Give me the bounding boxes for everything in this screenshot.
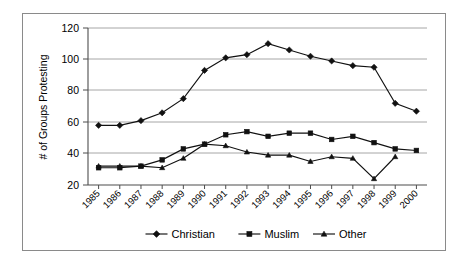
x-tick-label-1989: 1989 — [164, 188, 187, 211]
chart-legend: ChristianMuslimOther — [146, 228, 367, 240]
x-tick-labels: 1985198619871988198919901991199219931994… — [79, 188, 420, 211]
data-point-muslim-1994 — [287, 131, 292, 136]
legend-label-christian: Christian — [172, 228, 215, 240]
data-point-other-1999 — [393, 154, 398, 159]
x-tick-label-1985: 1985 — [79, 188, 102, 211]
x-tick-label-1994: 1994 — [270, 188, 293, 211]
x-tick-label-1991: 1991 — [206, 188, 229, 211]
data-point-muslim-1989 — [181, 147, 186, 152]
data-point-christian-1987 — [138, 118, 144, 124]
data-point-muslim-1991 — [223, 132, 228, 137]
data-point-christian-1998 — [371, 64, 377, 70]
data-point-other-1989 — [181, 156, 186, 161]
data-series-layer — [95, 41, 419, 181]
data-point-christian-1992 — [244, 52, 250, 58]
series-muslim — [96, 129, 418, 170]
y-tick-label-60: 60 — [67, 116, 79, 128]
y-tick-label-20: 20 — [67, 179, 79, 191]
data-point-muslim-1988 — [160, 158, 165, 163]
x-tick-label-1997: 1997 — [334, 188, 357, 211]
data-point-muslim-2000 — [414, 148, 419, 153]
series-line-muslim — [99, 132, 417, 168]
data-point-christian-1985 — [95, 122, 101, 128]
data-point-christian-1995 — [307, 53, 313, 59]
data-point-christian-1988 — [159, 110, 165, 116]
data-point-muslim-1998 — [372, 140, 377, 145]
data-point-christian-2000 — [413, 108, 419, 114]
data-point-muslim-1996 — [329, 137, 334, 142]
y-tick-labels: 120 100 80 60 40 20 — [61, 22, 79, 191]
x-tick-label-1996: 1996 — [312, 188, 335, 211]
axes — [83, 28, 427, 185]
data-point-muslim-1992 — [245, 129, 250, 134]
legend-label-other: Other — [339, 228, 367, 240]
data-point-muslim-1997 — [351, 134, 356, 139]
x-tick-label-1999: 1999 — [376, 188, 399, 211]
legend-marker-muslim — [247, 232, 252, 237]
x-tick-label-1986: 1986 — [100, 188, 123, 211]
data-point-christian-1993 — [265, 41, 271, 47]
series-line-christian — [99, 44, 417, 126]
x-tick-label-1995: 1995 — [291, 188, 314, 211]
data-point-christian-1994 — [286, 47, 292, 53]
x-tick-label-1993: 1993 — [249, 188, 272, 211]
series-christian — [95, 41, 419, 129]
y-axis-title: # of Groups Protesting — [37, 54, 49, 159]
data-point-muslim-1993 — [266, 134, 271, 139]
data-point-christian-1997 — [350, 63, 356, 69]
y-tick-label-80: 80 — [67, 84, 79, 96]
x-tick-label-2000: 2000 — [397, 188, 420, 211]
chart-container: 120 100 80 60 40 20 # of Groups Protesti… — [0, 0, 467, 265]
x-tick-label-1988: 1988 — [143, 188, 166, 211]
x-tick-label-1990: 1990 — [185, 188, 208, 211]
line-chart-plot: 120 100 80 60 40 20 # of Groups Protesti… — [0, 0, 467, 265]
y-tick-label-120: 120 — [61, 22, 79, 34]
y-tick-label-100: 100 — [61, 53, 79, 65]
data-point-christian-1991 — [223, 55, 229, 61]
data-point-christian-1986 — [117, 122, 123, 128]
x-tick-label-1998: 1998 — [355, 188, 378, 211]
data-point-muslim-1999 — [393, 147, 398, 152]
series-other — [96, 142, 398, 181]
x-tick-label-1992: 1992 — [228, 188, 251, 211]
x-tick-label-1987: 1987 — [122, 188, 145, 211]
legend-label-muslim: Muslim — [264, 228, 299, 240]
y-tick-label-40: 40 — [67, 147, 79, 159]
data-point-christian-1999 — [392, 100, 398, 106]
data-point-muslim-1995 — [308, 131, 313, 136]
legend-marker-christian — [153, 231, 160, 238]
